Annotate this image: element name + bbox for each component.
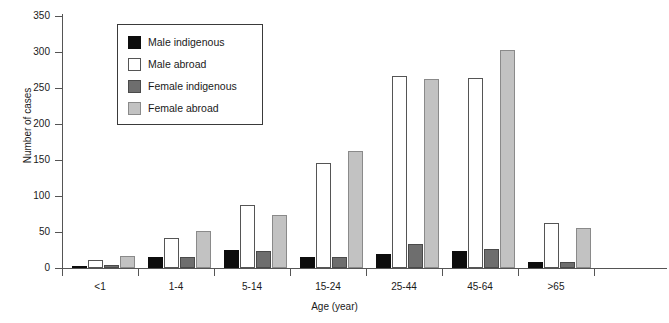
y-axis-tick (55, 160, 63, 161)
x-axis-tick (138, 269, 139, 276)
y-axis-tick (55, 232, 63, 233)
y-axis-tick-label-text: 0 (20, 263, 50, 273)
x-axis-title: Age (year) (0, 301, 669, 312)
y-axis-tick-label-text: 200 (20, 119, 50, 129)
y-axis-tick (55, 124, 63, 125)
bar (500, 50, 515, 268)
bar (240, 205, 255, 268)
legend-swatch-icon (128, 58, 141, 71)
x-axis-tick (594, 269, 595, 276)
y-axis-tick-label: 250 (18, 83, 50, 93)
y-axis-tick-label-text: 350 (20, 11, 50, 21)
bar (348, 151, 363, 268)
bar (88, 260, 103, 268)
y-axis-tick (55, 52, 63, 53)
bar (544, 223, 559, 268)
chart-legend: Male indigenousMale abroadFemale indigen… (117, 24, 263, 125)
legend-item-label: Male abroad (148, 59, 206, 70)
y-axis-tick-label-text: 50 (20, 227, 50, 237)
y-axis-tick-label: 150 (18, 155, 50, 165)
y-axis-tick (55, 16, 63, 17)
x-axis-tick-label: <1 (60, 281, 140, 292)
y-axis-tick (55, 196, 63, 197)
x-axis-tick-label: 45-64 (440, 281, 520, 292)
bar (424, 79, 439, 268)
x-axis-tick-label: 1-4 (136, 281, 216, 292)
bar (408, 244, 423, 268)
bar (316, 163, 331, 268)
y-axis-tick (55, 88, 63, 89)
bar (272, 215, 287, 268)
y-axis-tick-label-text: 150 (20, 155, 50, 165)
legend-item: Female abroad (128, 98, 262, 119)
bar (484, 249, 499, 268)
bar (148, 257, 163, 268)
legend-item: Male indigenous (128, 32, 262, 53)
bar (180, 257, 195, 268)
bar (120, 256, 135, 268)
bar (196, 231, 211, 268)
legend-swatch-icon (128, 80, 141, 93)
x-axis-tick (214, 269, 215, 276)
y-axis-tick-label: 300 (18, 47, 50, 57)
y-axis-tick-label-text: 300 (20, 47, 50, 57)
bar (224, 250, 239, 268)
legend-swatch-icon (128, 36, 141, 49)
x-axis-tick (442, 269, 443, 276)
legend-item: Male abroad (128, 54, 262, 75)
legend-item-label: Female abroad (148, 103, 219, 114)
legend-item-label: Male indigenous (148, 37, 224, 48)
bar (300, 257, 315, 268)
x-axis-tick-label: 25-44 (364, 281, 444, 292)
y-axis-tick-label: 350 (18, 11, 50, 21)
bar (468, 78, 483, 268)
x-axis-tick-label: 5-14 (212, 281, 292, 292)
bar (576, 228, 591, 268)
bar-chart-figure: Number of cases 050100150200250300350 <1… (0, 0, 669, 323)
legend-item: Female indigenous (128, 76, 262, 97)
bar (332, 257, 347, 268)
y-axis-tick-label: 50 (18, 227, 50, 237)
bar (164, 238, 179, 268)
y-axis-tick-label: 0 (18, 263, 50, 273)
x-axis-tick (62, 269, 63, 276)
bar (392, 76, 407, 268)
x-axis-tick-label: 15-24 (288, 281, 368, 292)
bar (256, 251, 271, 268)
x-axis-tick (518, 269, 519, 276)
bar (528, 262, 543, 268)
y-axis-tick-label: 200 (18, 119, 50, 129)
x-axis-line (62, 268, 667, 269)
y-axis-tick-label: 100 (18, 191, 50, 201)
legend-item-label: Female indigenous (148, 81, 237, 92)
x-axis-tick (366, 269, 367, 276)
legend-swatch-icon (128, 102, 141, 115)
y-axis-tick-label-text: 250 (20, 83, 50, 93)
bar (452, 251, 467, 268)
bar (376, 254, 391, 268)
x-axis-tick-label: >65 (516, 281, 596, 292)
y-axis-tick-label-text: 100 (20, 191, 50, 201)
x-axis-tick (290, 269, 291, 276)
